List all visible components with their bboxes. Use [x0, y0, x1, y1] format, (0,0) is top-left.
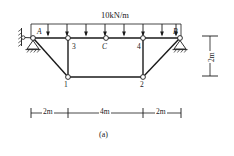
joint-A: [31, 36, 36, 41]
load-arrow-6: [141, 24, 145, 36]
node-label-1: 1: [64, 81, 68, 89]
node-label-C: C: [102, 43, 107, 51]
node-label-2: 2: [140, 81, 144, 89]
left-roller-circle: [21, 36, 25, 40]
node-label-B: B: [173, 28, 178, 36]
load-magnitude-label: 10kN/m: [101, 11, 129, 20]
member-diagonal-right: [143, 39, 179, 77]
load-arrow-2: [65, 24, 69, 36]
node-label-3: 3: [72, 43, 76, 51]
joint-2: [141, 75, 146, 80]
truss-diagram-figure: [0, 0, 234, 156]
joint-1: [66, 75, 71, 80]
distributed-load-group: [31, 24, 181, 37]
joint-3: [66, 36, 71, 41]
load-arrow-3: [84, 24, 88, 36]
dimension-label-right: 2m: [155, 108, 167, 116]
dimension-label-height: 2m: [208, 51, 216, 63]
load-arrow-5: [122, 24, 126, 36]
node-label-4: 4: [137, 43, 141, 51]
support-left-pin: [26, 41, 41, 53]
member-diagonal-left: [34, 39, 68, 77]
dimension-label-middle: 4m: [99, 108, 111, 116]
support-right-pin: [173, 41, 188, 53]
joint-C: [104, 36, 109, 41]
joint-B: [178, 36, 183, 41]
load-arrow-7: [160, 24, 164, 36]
joint-4: [141, 36, 146, 41]
load-arrow-1: [46, 24, 50, 36]
load-arrow-4: [103, 24, 107, 36]
node-label-A: A: [37, 28, 42, 36]
dimension-label-left: 2m: [42, 108, 54, 116]
left-wall-roller-support: [18, 28, 31, 46]
figure-caption: (a): [99, 131, 108, 139]
